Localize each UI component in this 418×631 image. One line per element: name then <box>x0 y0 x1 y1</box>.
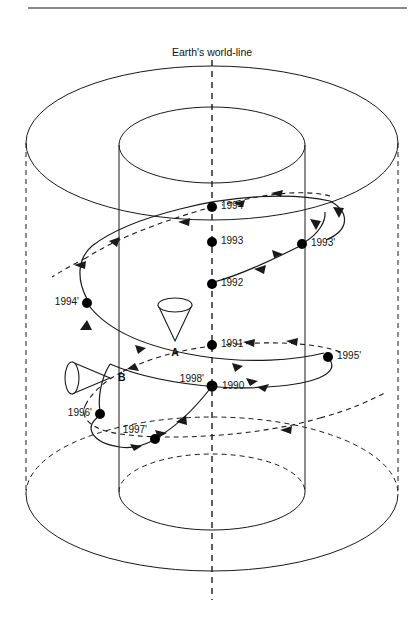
worldline-arrowheads <box>74 190 344 451</box>
solid-seg-top-left <box>92 209 180 246</box>
solid-seg-top-right <box>326 201 345 240</box>
event-1997-prime-label: 1997' <box>123 425 147 435</box>
arrow-dashed-6 <box>243 339 255 347</box>
arrow-solid-3 <box>80 320 92 330</box>
solid-seg-down-left <box>99 364 110 411</box>
event-1993-label: 1993 <box>221 236 243 246</box>
cone-a-mouth <box>158 298 192 312</box>
event-1996-prime-dot <box>95 409 105 419</box>
solid-seg-low-loop <box>91 417 120 447</box>
dashed-traveller-world-line <box>52 193 386 437</box>
solid-seg-1995p-loop <box>280 360 332 386</box>
arrow-dashed-5 <box>286 338 298 346</box>
dashed-seg-low-far <box>320 392 386 418</box>
solid-seg-left-down <box>80 246 92 299</box>
event-1990-label: 1990 <box>222 381 244 391</box>
event-1996-prime-label: 1996' <box>68 408 92 418</box>
event-1993-prime-label: 1993' <box>311 238 335 248</box>
solid-seg-1997-up <box>158 390 209 437</box>
arrow-solid-2 <box>109 237 120 247</box>
event-1995-prime-dot <box>323 352 333 362</box>
cone-b-mouth <box>65 362 79 394</box>
event-1994-dot <box>207 202 217 212</box>
event-1994-prime-label: 1994' <box>55 297 79 307</box>
dashed-seg-mid-right <box>240 343 340 352</box>
light-cone-a-label: A <box>171 347 179 357</box>
light-cone-b-label: B <box>118 372 126 382</box>
light-cone-a <box>158 298 192 341</box>
event-1994-label: 1994 <box>221 201 243 211</box>
spacetime-diagram <box>0 0 418 631</box>
solid-seg-top-arc <box>180 196 330 209</box>
arrow-solid-7 <box>127 363 139 371</box>
arrow-solid-5 <box>232 363 243 372</box>
event-1994-prime-dot <box>82 298 92 308</box>
event-1997-prime-dot <box>150 434 160 444</box>
event-1998-prime-label: 1998' <box>180 374 204 384</box>
arrow-solid-4 <box>135 345 146 354</box>
event-1991-dot <box>207 340 217 350</box>
event-1990-dot <box>207 381 218 392</box>
arrow-solid-8 <box>246 378 258 386</box>
event-1992-label: 1992 <box>221 278 243 288</box>
event-dots <box>82 202 333 444</box>
event-1993-dot <box>207 237 217 247</box>
earths-world-line-label: Earth's world-line <box>172 47 252 57</box>
arrow-solid-6 <box>257 384 269 392</box>
event-1995-prime-label: 1995' <box>337 351 361 361</box>
event-1993-prime-dot <box>297 239 307 249</box>
dashed-seg-upper-left <box>86 209 205 258</box>
event-1991-label: 1991 <box>221 339 243 349</box>
event-1992-dot <box>207 279 217 289</box>
